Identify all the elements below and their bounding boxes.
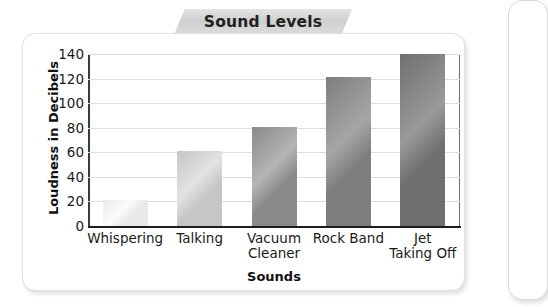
bar-rock-band[interactable] bbox=[326, 77, 371, 226]
bar-whispering[interactable] bbox=[103, 200, 148, 226]
page-title: Sound Levels bbox=[174, 9, 352, 35]
y-axis-title: Loudness in Decibels bbox=[44, 50, 62, 226]
chart-title-banner: Sound Levels bbox=[174, 9, 352, 35]
adjacent-card-edge bbox=[508, 0, 548, 300]
plot-area bbox=[88, 54, 460, 226]
bar-vacuum-cleaner[interactable] bbox=[252, 127, 297, 227]
bar-jet-taking-off[interactable] bbox=[400, 54, 445, 226]
bar-talking[interactable] bbox=[177, 151, 222, 226]
